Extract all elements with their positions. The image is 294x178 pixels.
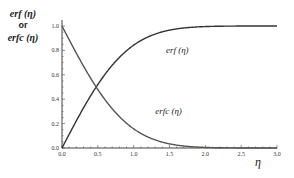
x-tick-label: 0.0 [58,151,66,157]
x-tick-label: 2.0 [202,151,210,157]
y-tick-label: 0.2 [52,121,60,127]
y-tick-label: 0.6 [52,72,60,78]
x-tick-label: 1.0 [130,151,138,157]
y-tick-label: 0.0 [52,145,60,151]
y-tick-label: 0.8 [52,47,60,53]
x-tick-label: 2.5 [237,151,245,157]
erf-curve-label: erf (η) [166,45,189,55]
y-axis-label-erf: erf (η) [10,8,36,20]
erfc-curve-label: erfc (η) [155,106,182,116]
x-axis-label: η [255,155,261,169]
erf-erfc-chart: 0.00.51.01.52.02.53.00.00.20.40.60.81.0 … [0,0,294,178]
y-tick-label: 1.0 [52,23,60,29]
y-tick-label: 0.4 [52,96,60,102]
y-axis-label-or: or [19,20,28,30]
x-tick-label: 0.5 [94,151,102,157]
x-tick-label: 1.5 [166,151,174,157]
axes: 0.00.51.01.52.02.53.00.00.20.40.60.81.0 [52,20,281,157]
y-axis-label-erfc: erfc (η) [8,32,39,44]
x-tick-label: 3.0 [273,151,281,157]
labels: erf (η) or erfc (η) erf (η) erfc (η) η [8,8,261,169]
